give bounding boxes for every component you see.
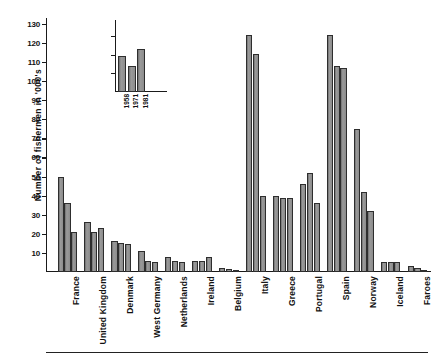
bar: [219, 268, 225, 272]
category-label: United Kingdom: [98, 276, 108, 344]
bar: [111, 241, 117, 272]
bar: [165, 257, 171, 272]
y-tick-label: 70: [32, 134, 41, 143]
y-tick-label: 120: [27, 38, 40, 47]
bar: [408, 266, 414, 272]
bar: [58, 177, 64, 272]
y-tick-label: 50: [32, 172, 41, 181]
bar-group: [408, 18, 428, 272]
bar: [300, 184, 306, 272]
legend-sample-bar: [128, 66, 136, 92]
legend-axis-line: [115, 20, 116, 92]
category-label: Denmark: [125, 276, 135, 314]
category-label: Belgium: [233, 276, 243, 311]
bar: [125, 244, 131, 272]
y-tick-label: 80: [32, 115, 41, 124]
y-tick-label: 20: [32, 229, 41, 238]
bar: [388, 262, 394, 272]
bar: [246, 35, 252, 272]
bar: [91, 232, 97, 272]
bar: [98, 228, 104, 272]
bar: [253, 54, 259, 272]
y-tick-label: 90: [32, 96, 41, 105]
bar: [138, 251, 144, 272]
bar: [421, 270, 427, 272]
category-label: Portugal: [314, 276, 324, 312]
legend-sample-bar: [137, 49, 145, 92]
bar-group: [273, 18, 293, 272]
category-label: Netherlands: [179, 276, 189, 327]
bar: [260, 196, 266, 272]
bar: [145, 261, 151, 272]
bar-group: [219, 18, 239, 272]
bar: [273, 196, 279, 272]
bar: [334, 66, 340, 272]
bar: [280, 198, 286, 272]
bar: [414, 268, 420, 272]
bar-group: [84, 18, 104, 272]
bar: [327, 35, 333, 272]
bar: [64, 203, 70, 272]
bar: [354, 129, 360, 272]
category-label: Faroes: [422, 276, 432, 305]
bar: [71, 232, 77, 272]
plot-area: 102030405060708090100110120130: [46, 18, 431, 272]
legend-year-label: 1981: [142, 94, 149, 108]
y-tick-label: 130: [27, 19, 40, 28]
bottom-rule: [46, 352, 428, 353]
bar-group: [58, 18, 78, 272]
bar: [84, 222, 90, 272]
legend-tick: [111, 36, 116, 37]
bar-group: [381, 18, 401, 272]
bar-group: [192, 18, 212, 272]
bar: [361, 192, 367, 272]
bar: [179, 262, 185, 273]
legend-year-label: 1958: [123, 94, 130, 108]
bar: [367, 211, 373, 272]
category-label: Iceland: [395, 276, 405, 307]
y-tick-label: 40: [32, 191, 41, 200]
bar-group: [327, 18, 347, 272]
y-tick-label: 100: [27, 77, 40, 86]
bar: [172, 261, 178, 272]
bar: [381, 262, 387, 272]
y-tick-label: 30: [32, 210, 41, 219]
bar: [192, 261, 198, 272]
category-label: Norway: [368, 276, 378, 308]
category-label: Ireland: [206, 276, 216, 305]
legend-tick: [111, 55, 116, 56]
bar: [314, 203, 320, 272]
bar: [152, 262, 158, 272]
y-tick-label: 110: [28, 57, 40, 66]
bar: [287, 198, 293, 272]
legend-year-label: 1971: [132, 94, 139, 108]
bar: [226, 269, 232, 272]
category-label: Spain: [341, 276, 351, 300]
bar: [394, 262, 400, 272]
bar: [340, 68, 346, 272]
bar: [206, 257, 212, 272]
category-label: West Germany: [152, 276, 162, 338]
bar-group: [300, 18, 320, 272]
legend-inset: 195819711981: [108, 20, 172, 118]
y-tick-label: 60: [32, 153, 41, 162]
bar-groups: [46, 18, 431, 272]
bar-group: [246, 18, 266, 272]
bar-group: [354, 18, 374, 272]
bar: [199, 261, 205, 272]
category-label: France: [71, 276, 81, 305]
category-labels: FranceUnited KingdomDenmarkWest GermanyN…: [46, 276, 431, 360]
bar: [118, 243, 124, 272]
category-label: Greece: [287, 276, 297, 306]
category-label: Italy: [260, 276, 270, 294]
bar: [233, 270, 239, 272]
legend-tick: [111, 73, 116, 74]
y-tick-label: 10: [32, 248, 41, 257]
legend-sample-bar: [118, 56, 126, 92]
bar: [307, 173, 313, 272]
bar-chart: Number of fishermen in '000's 1020304050…: [0, 0, 437, 360]
